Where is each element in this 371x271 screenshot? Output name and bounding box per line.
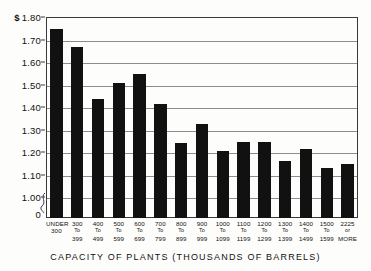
y-tick-label: 1.20 (22, 147, 41, 158)
x-tick-label: 1200To1299 (254, 220, 275, 242)
bar (71, 47, 83, 218)
x-axis-labels: UNDER300300To399400To499500To599600To699… (46, 220, 358, 250)
x-tick-label: 900To999 (192, 220, 213, 242)
bar (196, 124, 208, 218)
y-tick-mark (41, 84, 45, 85)
x-tick-label: 700To799 (150, 220, 171, 242)
x-tick-label: 800To899 (171, 220, 192, 242)
x-axis-title: CAPACITY OF PLANTS (THOUSANDS OF BARRELS… (0, 252, 371, 262)
bar (341, 164, 353, 218)
y-tick-mark (41, 152, 45, 153)
x-tick-label: 1300To1399 (275, 220, 296, 242)
y-tick-mark (41, 62, 45, 63)
bar (237, 142, 249, 218)
bar (300, 149, 312, 218)
bar (133, 74, 145, 218)
x-tick-label: 1100To1199 (233, 220, 254, 242)
x-tick-label: 300To399 (67, 220, 88, 242)
x-tick-label: 600To699 (129, 220, 150, 242)
bar (321, 168, 333, 218)
bar (154, 104, 166, 218)
y-tick-label: 1.70 (22, 34, 41, 45)
x-tick-label: 1500To1599 (316, 220, 337, 242)
y-tick-mark (41, 129, 45, 130)
x-tick-label: 400To499 (88, 220, 109, 242)
x-tick-label: 1000To1099 (212, 220, 233, 242)
bar (279, 161, 291, 218)
bar (50, 29, 62, 218)
y-tick-label: 1.50 (22, 79, 41, 90)
x-tick-label: UNDER300 (46, 220, 67, 235)
x-tick-label: 1400To1499 (296, 220, 317, 242)
y-tick-label: 1.40 (22, 102, 41, 113)
y-tick-label: 1.10 (22, 169, 41, 180)
y-tick-mark (41, 107, 45, 108)
bar (175, 143, 187, 218)
y-tick-label: 1.30 (22, 124, 41, 135)
bar (92, 99, 104, 218)
bars-layer (46, 17, 358, 218)
y-tick-mark (41, 174, 45, 175)
y-tick-label: 1.60 (22, 57, 41, 68)
bar-chart: 1.801.701.601.501.401.301.201.101.000 UN… (0, 0, 371, 271)
bar (258, 142, 270, 218)
y-tick-label: 1.80 (14, 12, 41, 23)
bar (217, 151, 229, 218)
y-axis: 1.801.701.601.501.401.301.201.101.000 (0, 0, 46, 260)
x-tick-label: 2225orMORE (337, 220, 358, 242)
y-tick-mark (41, 39, 45, 40)
y-tick-mark (41, 17, 45, 18)
x-tick-label: 500To599 (108, 220, 129, 242)
bar (113, 83, 125, 218)
